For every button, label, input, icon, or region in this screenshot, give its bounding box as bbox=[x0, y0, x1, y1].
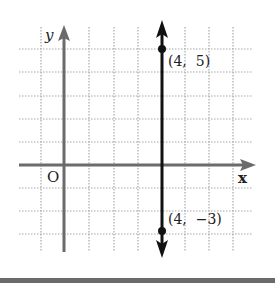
point-4-neg3 bbox=[158, 227, 166, 235]
y-axis-label: y bbox=[44, 26, 54, 44]
bottom-border bbox=[0, 278, 275, 283]
origin-label: O bbox=[47, 168, 59, 186]
x-axis-label: x bbox=[238, 169, 248, 187]
coordinate-plane: y x O (4, 5) (4, −3) bbox=[0, 0, 275, 283]
point-label-4-5: (4, 5) bbox=[168, 53, 210, 69]
y-axis bbox=[58, 25, 70, 252]
point-4-5 bbox=[158, 45, 166, 53]
point-label-4-neg3: (4, −3) bbox=[168, 211, 222, 227]
vertical-line-x-4 bbox=[156, 20, 168, 258]
